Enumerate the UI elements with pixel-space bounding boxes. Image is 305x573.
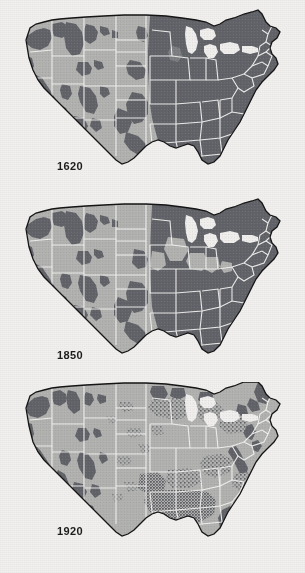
year-label-1620: 1620 bbox=[57, 160, 83, 172]
map-panel-1920: 1920 bbox=[0, 382, 305, 573]
map-panel-1850: 1850 bbox=[0, 191, 305, 382]
us-forest-map-1920 bbox=[0, 382, 305, 573]
year-label-1850: 1850 bbox=[57, 349, 83, 361]
us-forest-map-1850 bbox=[0, 191, 305, 382]
us-forest-map-1620 bbox=[0, 0, 305, 191]
map-panel-1620: 1620 bbox=[0, 0, 305, 191]
year-label-1920: 1920 bbox=[57, 525, 83, 537]
forest-cover-map-figure: { "figure": { "title": "Forest cover of … bbox=[0, 0, 305, 573]
map-canvas-1850 bbox=[0, 191, 305, 382]
map-canvas-1620 bbox=[0, 0, 305, 191]
map-canvas-1920 bbox=[0, 382, 305, 573]
